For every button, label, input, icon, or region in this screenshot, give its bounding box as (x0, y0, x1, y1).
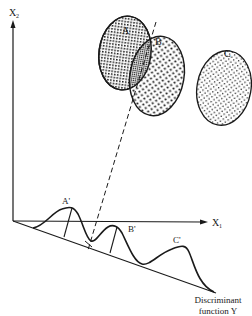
ellipse-b-label: B (155, 36, 162, 47)
overlap-marker (85, 241, 92, 247)
discriminant-axis (13, 221, 216, 293)
a-prime-drop-line (64, 208, 72, 237)
b-prime-label: B' (128, 224, 136, 234)
a-prime-label: A' (62, 196, 70, 206)
distribution-curve (33, 207, 214, 292)
group-ellipses: A B C (94, 13, 252, 130)
y-axis-label-subscript: 2 (16, 13, 19, 19)
x-axis-arrow-icon (200, 220, 208, 225)
y-axis: X 2 (9, 7, 19, 221)
discriminant-label-line2: function Y (199, 306, 238, 316)
discriminant-analysis-diagram: X 2 X 1 A B C A' B' C' Disc (0, 0, 252, 316)
x-axis-label-subscript: 1 (219, 223, 222, 229)
discriminant-label-line1: Discriminant (195, 295, 242, 305)
c-prime-label: C' (173, 235, 181, 245)
b-prime-drop-line (110, 227, 117, 253)
ellipse-c (191, 46, 252, 129)
ellipse-a-label: A (122, 25, 130, 36)
projected-distributions: A' B' C' (33, 196, 214, 292)
ellipse-c-label: C (224, 48, 231, 59)
y-axis-arrow-icon (11, 20, 16, 28)
